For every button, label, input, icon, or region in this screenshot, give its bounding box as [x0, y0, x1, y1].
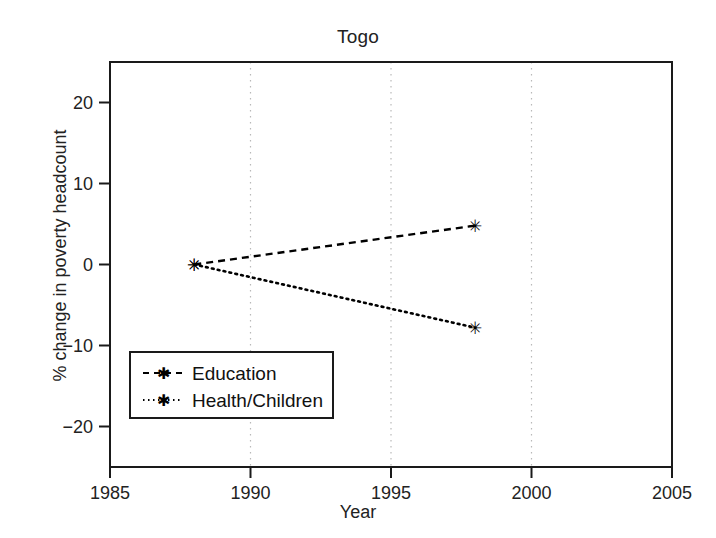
x-tick-label: 1990	[230, 483, 270, 503]
legend: ✱ Education ✱ Health/Children	[130, 352, 333, 418]
data-series-group: ✳✳✳✳	[187, 217, 482, 338]
y-tick-label: −10	[62, 336, 93, 356]
chart-container: Togo % change in poverty headcount Year …	[0, 0, 716, 538]
y-tick-label: 20	[73, 93, 93, 113]
plot-area: 20100−10−20 19851990199520002005 ✳✳✳✳ ✱ …	[0, 0, 716, 538]
y-axis-ticks: 20100−10−20	[62, 93, 110, 437]
series-line-education	[194, 226, 475, 265]
x-tick-label: 2000	[511, 483, 551, 503]
y-tick-label: 0	[83, 255, 93, 275]
legend-label-education: Education	[192, 363, 277, 384]
x-tick-label: 2005	[652, 483, 692, 503]
legend-marker-education: ✱	[157, 365, 170, 382]
legend-marker-health-children: ✱	[157, 392, 170, 409]
x-axis-ticks: 19851990199520002005	[90, 467, 692, 503]
series-line-health-children	[194, 265, 475, 328]
x-tick-label: 1985	[90, 483, 130, 503]
x-tick-label: 1995	[371, 483, 411, 503]
data-point-marker: ✳	[468, 319, 482, 338]
data-point-marker: ✳	[187, 256, 201, 275]
y-tick-label: 10	[73, 174, 93, 194]
legend-label-health-children: Health/Children	[192, 390, 323, 411]
data-point-marker: ✳	[468, 217, 482, 236]
legend-item-education[interactable]: ✱ Education	[143, 363, 277, 384]
y-tick-label: −20	[62, 417, 93, 437]
